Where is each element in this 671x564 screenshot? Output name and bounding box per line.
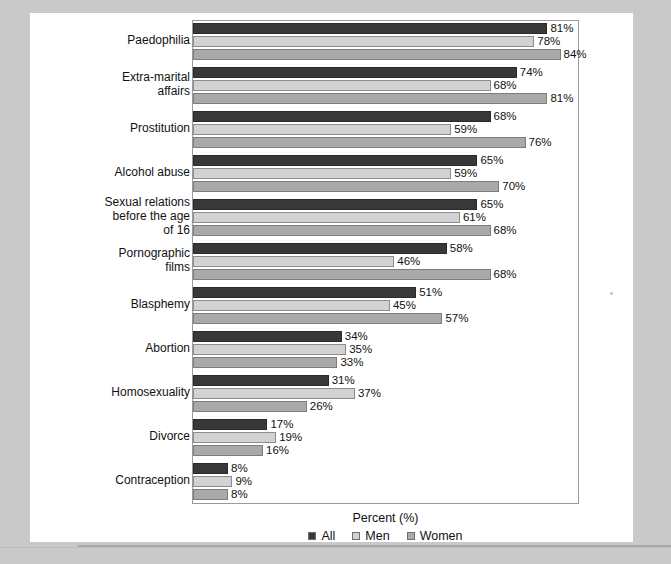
category-label-line: Prostitution xyxy=(40,121,190,135)
bar-all[interactable] xyxy=(193,419,267,430)
legend-item-men[interactable]: Men xyxy=(352,529,389,543)
bar-all[interactable] xyxy=(193,331,342,342)
bar-men[interactable] xyxy=(193,124,451,135)
bar-group: 17%19%16% xyxy=(193,418,578,462)
bar-group: 81%78%84% xyxy=(193,22,578,66)
bar-women[interactable] xyxy=(193,225,491,236)
legend-swatch-icon xyxy=(407,532,415,540)
bar-men[interactable] xyxy=(193,300,390,311)
bar-men[interactable] xyxy=(193,256,394,267)
bar-all[interactable] xyxy=(193,243,447,254)
category-label-line: of 16 xyxy=(40,223,190,237)
chart-plot-area: 81%78%84%74%68%81%68%59%76%65%59%70%65%6… xyxy=(193,21,578,503)
bar-women[interactable] xyxy=(193,357,337,368)
legend-label: Men xyxy=(365,529,389,543)
bar-value-label: 68% xyxy=(494,111,517,122)
bar-men[interactable] xyxy=(193,80,491,91)
bar-value-label: 65% xyxy=(480,199,503,210)
category-label-line: films xyxy=(40,260,190,274)
category-label-line: Pornographic xyxy=(40,246,190,260)
bar-value-label: 81% xyxy=(550,23,573,34)
bar-value-label: 45% xyxy=(393,300,416,311)
bar-value-label: 37% xyxy=(358,388,381,399)
legend-label: All xyxy=(321,529,335,543)
category-label-line: Divorce xyxy=(40,429,190,443)
category-label: Paedophilia xyxy=(40,33,190,47)
bar-group: 34%35%33% xyxy=(193,330,578,374)
page-speck-artifact xyxy=(610,292,613,295)
bar-value-label: 26% xyxy=(310,401,333,412)
bar-all[interactable] xyxy=(193,155,477,166)
category-label: Pornographicfilms xyxy=(40,246,190,274)
bar-all[interactable] xyxy=(193,67,517,78)
category-label-line: Abortion xyxy=(40,341,190,355)
bar-group: 51%45%57% xyxy=(193,286,578,330)
bar-all[interactable] xyxy=(193,463,228,474)
bar-women[interactable] xyxy=(193,181,499,192)
bar-value-label: 84% xyxy=(564,49,587,60)
bar-all[interactable] xyxy=(193,287,416,298)
category-label: Extra-maritalaffairs xyxy=(40,70,190,98)
bar-all[interactable] xyxy=(193,375,329,386)
bar-men[interactable] xyxy=(193,344,346,355)
bar-men[interactable] xyxy=(193,476,232,487)
category-label: Homosexuality xyxy=(40,385,190,399)
bar-value-label: 8% xyxy=(231,489,248,500)
bar-women[interactable] xyxy=(193,489,228,500)
category-label-line: before the age xyxy=(40,209,190,223)
category-axis-labels: PaedophiliaExtra-maritalaffairsProstitut… xyxy=(38,20,190,504)
bar-women[interactable] xyxy=(193,49,561,60)
bar-value-label: 78% xyxy=(537,36,560,47)
bar-men[interactable] xyxy=(193,388,355,399)
category-label-line: Extra-marital xyxy=(40,70,190,84)
bar-value-label: 34% xyxy=(345,331,368,342)
category-label: Abortion xyxy=(40,341,190,355)
bar-value-label: 68% xyxy=(494,80,517,91)
legend-swatch-icon xyxy=(308,532,316,540)
bar-men[interactable] xyxy=(193,212,460,223)
category-label-line: Blasphemy xyxy=(40,297,190,311)
category-label: Divorce xyxy=(40,429,190,443)
x-axis-title: Percent (%) xyxy=(192,511,579,525)
legend-item-all[interactable]: All xyxy=(308,529,335,543)
category-label: Blasphemy xyxy=(40,297,190,311)
chart-legend: AllMenWomen xyxy=(192,529,579,543)
category-label-line: Alcohol abuse xyxy=(40,165,190,179)
bar-value-label: 65% xyxy=(480,155,503,166)
bar-value-label: 8% xyxy=(231,463,248,474)
bar-group: 31%37%26% xyxy=(193,374,578,418)
chart-plot-frame: 81%78%84%74%68%81%68%59%76%65%59%70%65%6… xyxy=(192,20,579,504)
bar-men[interactable] xyxy=(193,168,451,179)
bar-men[interactable] xyxy=(193,36,534,47)
bar-value-label: 68% xyxy=(494,269,517,280)
bar-value-label: 59% xyxy=(454,124,477,135)
bar-women[interactable] xyxy=(193,401,307,412)
bar-group: 68%59%76% xyxy=(193,110,578,154)
category-label-line: Paedophilia xyxy=(40,33,190,47)
bar-women[interactable] xyxy=(193,445,263,456)
bar-all[interactable] xyxy=(193,23,547,34)
bar-women[interactable] xyxy=(193,313,442,324)
legend-swatch-icon xyxy=(352,532,360,540)
bar-women[interactable] xyxy=(193,93,547,104)
category-label-line: Contraception xyxy=(40,473,190,487)
bar-value-label: 74% xyxy=(520,67,543,78)
document-page: PaedophiliaExtra-maritalaffairsProstitut… xyxy=(30,13,633,542)
category-label: Sexual relationsbefore the ageof 16 xyxy=(40,195,190,237)
footer-rule-secondary xyxy=(0,547,671,548)
bar-group: 58%46%68% xyxy=(193,242,578,286)
category-label: Prostitution xyxy=(40,121,190,135)
bar-all[interactable] xyxy=(193,199,477,210)
bar-group: 65%61%68% xyxy=(193,198,578,242)
bar-value-label: 46% xyxy=(397,256,420,267)
bar-value-label: 58% xyxy=(450,243,473,254)
legend-label: Women xyxy=(420,529,463,543)
bar-men[interactable] xyxy=(193,432,276,443)
legend-item-women[interactable]: Women xyxy=(407,529,463,543)
bar-value-label: 57% xyxy=(445,313,468,324)
bar-all[interactable] xyxy=(193,111,491,122)
bar-value-label: 17% xyxy=(270,419,293,430)
bar-women[interactable] xyxy=(193,137,526,148)
category-label-line: Homosexuality xyxy=(40,385,190,399)
bar-women[interactable] xyxy=(193,269,491,280)
